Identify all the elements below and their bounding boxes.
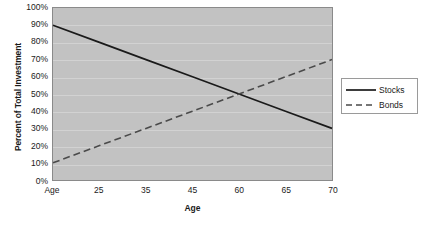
y-axis-tick-label: 20% — [12, 142, 48, 151]
x-axis-tick-label: 70 — [311, 185, 355, 196]
legend-item-label: Bonds — [379, 100, 403, 110]
y-axis-tick-label: 30% — [12, 124, 48, 133]
y-axis-tick-label: 50% — [12, 90, 48, 99]
x-axis-tick-label: 45 — [171, 185, 215, 196]
plot-area — [52, 7, 333, 181]
y-axis-tick-label: 10% — [12, 159, 48, 168]
x-axis-tick-label: 35 — [124, 185, 168, 196]
x-axis-tick-labels: Age253545606570 — [52, 185, 333, 199]
legend-line-swatch-bonds — [346, 100, 376, 110]
x-axis-title: Age — [52, 203, 333, 213]
legend-line-swatch-stocks — [346, 85, 376, 95]
y-axis-tick-label: 90% — [12, 20, 48, 29]
x-axis-tick-label: 65 — [264, 185, 308, 196]
x-axis-tick-label: Age — [30, 185, 74, 196]
y-axis-tick-label: 80% — [12, 37, 48, 46]
line-chart: Percent of Total Investment 100%90%80%70… — [0, 0, 422, 227]
x-axis-tick-label: 25 — [77, 185, 121, 196]
x-axis-tick-label: 60 — [217, 185, 261, 196]
y-axis-tick-label: 40% — [12, 107, 48, 116]
y-axis-tick-label: 70% — [12, 55, 48, 64]
legend-item[interactable]: Bonds — [342, 97, 417, 112]
y-axis-tick-labels: 100%90%80%70%60%50%40%30%20%10%0% — [12, 0, 48, 188]
y-axis-tick-label: 100% — [12, 3, 48, 12]
chart-legend: StocksBonds — [341, 78, 418, 114]
legend-item[interactable]: Stocks — [342, 82, 417, 97]
series-lines — [53, 8, 332, 180]
series-line-bonds — [53, 60, 332, 163]
series-line-stocks — [53, 25, 332, 128]
y-axis-tick-label: 60% — [12, 72, 48, 81]
legend-item-label: Stocks — [379, 85, 405, 95]
